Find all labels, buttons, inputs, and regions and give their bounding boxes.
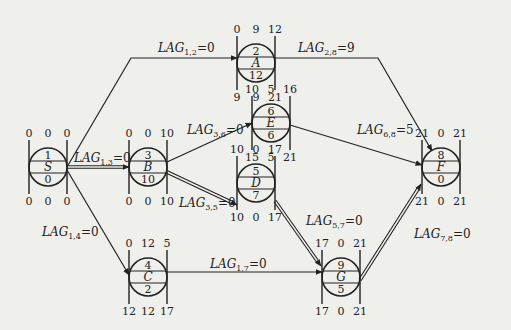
node-s: 1S0000000: [26, 127, 71, 208]
node-name: C: [143, 270, 152, 284]
node-top-value: 21: [353, 237, 367, 250]
network-diagram: LAG1,2=0 LAG2,8=9 LAG1,3=0 LAG3,6=0 LAG6…: [0, 0, 511, 330]
node-bottom-value: 0: [26, 195, 33, 208]
node-bottom-value: 5: [268, 151, 275, 164]
node-top-value: 0: [234, 23, 241, 36]
node-bottom-value: 0: [338, 305, 345, 318]
node-top-value: 9: [253, 23, 260, 36]
lag-label-1-4: LAG1,4=0: [41, 225, 99, 241]
node-bottom-value: 21: [353, 305, 367, 318]
lag-label-1-2: LAG1,2=0: [157, 41, 215, 57]
node-bottom-value: 9: [234, 91, 241, 104]
edge-a-f: [275, 58, 432, 151]
node-g: 9G51702117021: [315, 237, 367, 318]
node-duration: 6: [268, 129, 275, 142]
node-top-value: 21: [415, 127, 429, 140]
node-top-value: 0: [438, 127, 445, 140]
nodes: 1S00000002A12091299213B10001000104C20125…: [26, 23, 468, 318]
lag-label-2-8: LAG2,8=9: [297, 41, 355, 57]
node-e: 6E61051615521: [245, 83, 297, 164]
lag-label-3-6: LAG3,6=0: [186, 123, 244, 139]
node-duration: 5: [338, 283, 345, 296]
node-bottom-value: 12: [141, 305, 155, 318]
node-top-value: 12: [141, 237, 155, 250]
lag-label-1-3: LAG1,3=0: [73, 151, 131, 167]
node-name: G: [336, 270, 346, 284]
node-name: E: [266, 116, 276, 130]
node-top-value: 0: [45, 127, 52, 140]
node-bottom-value: 15: [245, 151, 259, 164]
node-bottom-value: 10: [160, 195, 174, 208]
node-top-value: 12: [268, 23, 282, 36]
edge-s-c: [67, 170, 129, 275]
node-name: A: [251, 56, 261, 70]
node-bottom-value: 12: [122, 305, 136, 318]
edge-g-f: [360, 184, 421, 280]
node-top-value: 5: [268, 83, 275, 96]
node-bottom-value: 21: [283, 151, 297, 164]
node-bottom-value: 0: [45, 195, 52, 208]
node-top-value: 0: [145, 127, 152, 140]
node-top-value: 0: [26, 127, 33, 140]
node-top-value: 10: [230, 143, 244, 156]
node-duration: 7: [253, 189, 260, 202]
node-top-value: 17: [315, 237, 329, 250]
node-name: D: [250, 176, 261, 190]
node-bottom-value: 21: [453, 195, 467, 208]
node-top-value: 10: [245, 83, 259, 96]
node-top-value: 5: [164, 237, 171, 250]
node-b: 3B1000100010: [126, 127, 175, 208]
node-duration: 0: [438, 173, 445, 186]
node-bottom-value: 17: [268, 211, 282, 224]
node-top-value: 0: [126, 127, 133, 140]
node-bottom-value: 17: [160, 305, 174, 318]
node-name: S: [44, 160, 52, 174]
lag-label-1-7: LAG1,7=0: [209, 257, 267, 273]
node-top-value: 21: [453, 127, 467, 140]
node-duration: 2: [145, 283, 152, 296]
lag-label-6-8: LAG6,8=5: [356, 123, 414, 139]
node-f: 8F02102121021: [415, 127, 467, 208]
lag-label-3-5: LAG3,5=0: [178, 196, 236, 212]
lag-label-5-7: LAG5,7=0: [305, 214, 363, 230]
node-bottom-value: 0: [145, 195, 152, 208]
node-top-value: 0: [338, 237, 345, 250]
node-bottom-value: 21: [415, 195, 429, 208]
lag-label-7-8: LAG7,8=0: [413, 227, 471, 243]
node-bottom-value: 0: [126, 195, 133, 208]
node-top-value: 0: [126, 237, 133, 250]
node-bottom-value: 0: [253, 211, 260, 224]
node-top-value: 10: [160, 127, 174, 140]
node-duration: 0: [45, 173, 52, 186]
node-bottom-value: 0: [64, 195, 71, 208]
node-name: F: [436, 160, 446, 174]
node-name: B: [143, 160, 153, 174]
node-top-value: 16: [283, 83, 297, 96]
node-bottom-value: 0: [438, 195, 445, 208]
node-top-value: 0: [64, 127, 71, 140]
node-c: 4C20125121217: [122, 237, 174, 318]
node-bottom-value: 10: [230, 211, 244, 224]
node-duration: 10: [141, 173, 155, 186]
node-duration: 12: [249, 69, 263, 82]
node-bottom-value: 17: [315, 305, 329, 318]
